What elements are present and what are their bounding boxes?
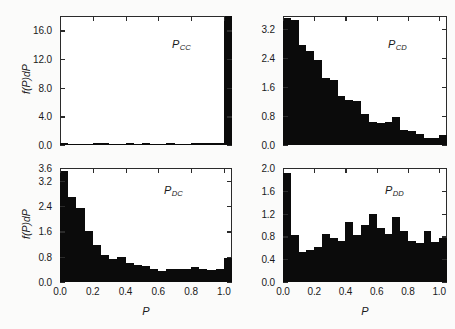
y-axis-tick: [283, 87, 288, 88]
panel-cd-label-main: P: [388, 38, 395, 50]
panel-dd-bars: [283, 168, 447, 282]
y-axis-tick-label: 0.4: [0, 254, 275, 265]
y-axis-tick-mirror: [227, 181, 232, 182]
x-axis-tick: [439, 168, 440, 173]
histogram-bar: [416, 134, 424, 145]
histogram-bar: [408, 131, 416, 145]
y-axis-tick-mirror: [442, 116, 447, 117]
histogram-bar: [439, 135, 447, 145]
x-axis-title-left: P: [142, 305, 149, 317]
x-axis-tick-label: 0.2: [307, 286, 321, 297]
histogram-bar: [338, 96, 346, 145]
y-axis-tick: [283, 58, 288, 59]
figure-histogram-grid: PCC 0.04.08.012.016.0 PCD 0.00.81.62.43.…: [0, 0, 455, 329]
histogram-bar: [283, 18, 291, 145]
y-axis-tick-label: 1.6: [0, 185, 275, 196]
x-axis-tick: [314, 168, 315, 173]
x-axis-tick-label: 0.6: [370, 286, 384, 297]
histogram-bar: [322, 234, 330, 282]
x-axis-tick: [439, 16, 440, 21]
x-axis-tick-label: 1.0: [432, 286, 446, 297]
panel-cc-label-main: P: [172, 38, 179, 50]
y-axis-tick-mirror: [442, 145, 447, 146]
histogram-bar: [369, 214, 377, 282]
panel-cd-bars: [283, 16, 447, 145]
panel-p-cd: PCD: [283, 16, 447, 145]
y-axis-tick-label: 3.2: [0, 23, 275, 34]
y-axis-tick: [60, 181, 65, 182]
x-axis-tick: [314, 16, 315, 21]
histogram-bar: [431, 242, 439, 282]
y-axis-tick-mirror: [442, 29, 447, 30]
histogram-bar: [338, 241, 346, 282]
histogram-bar: [322, 78, 330, 145]
x-axis-tick: [345, 168, 346, 173]
histogram-bar: [353, 235, 361, 282]
histogram-bar: [283, 173, 291, 282]
y-axis-tick-label: 2.0: [0, 163, 275, 174]
y-axis-tick-mirror: [442, 214, 447, 215]
panel-cd-label: PCD: [388, 38, 407, 50]
panel-cd-label-sub: CD: [396, 43, 407, 52]
panel-cc-label-sub: CC: [180, 43, 191, 52]
y-axis-tick: [60, 206, 65, 207]
y-axis-title-top: f(P)dP: [20, 49, 32, 109]
histogram-bar: [306, 51, 314, 145]
x-axis-tick-label: 0.6: [151, 286, 165, 297]
y-axis-tick-label: 0.0: [0, 140, 275, 151]
histogram-bar: [392, 217, 400, 282]
histogram-bar: [385, 122, 393, 145]
y-axis-tick-mirror: [442, 259, 447, 260]
histogram-bar: [299, 45, 307, 145]
x-axis-tick-label: 1.0: [217, 286, 231, 297]
y-axis-tick: [283, 214, 288, 215]
histogram-bar: [345, 100, 353, 145]
histogram-bar: [377, 228, 385, 282]
histogram-bar: [299, 252, 307, 282]
y-axis-tick: [283, 145, 288, 146]
panel-cc-label: PCC: [172, 38, 191, 50]
y-axis-tick: [283, 236, 288, 237]
y-axis-tick-mirror: [227, 206, 232, 207]
x-axis-tick: [158, 16, 159, 21]
histogram-bar: [377, 123, 385, 145]
y-axis-tick: [283, 116, 288, 117]
y-axis-tick-label: 2.4: [0, 52, 275, 63]
y-axis-tick: [283, 29, 288, 30]
x-axis-tick: [283, 168, 284, 173]
panel-dd-label-main: P: [385, 184, 392, 196]
y-axis-tick-label: 0.8: [0, 231, 275, 242]
y-axis-tick-label: 1.6: [0, 81, 275, 92]
histogram-bar: [361, 225, 369, 282]
y-axis-tick-mirror: [442, 282, 447, 283]
histogram-bar: [353, 101, 361, 145]
histogram-bar: [408, 241, 416, 282]
x-axis-tick: [283, 16, 284, 21]
y-axis-title-bottom: f(P)dP: [20, 194, 32, 254]
y-axis-tick-mirror: [442, 236, 447, 237]
histogram-bar: [306, 250, 314, 282]
histogram-bar: [400, 231, 408, 282]
histogram-bar: [314, 247, 322, 282]
x-axis-tick: [408, 168, 409, 173]
x-axis-tick: [224, 16, 225, 21]
y-axis-tick: [283, 259, 288, 260]
y-axis-tick-mirror: [442, 87, 447, 88]
x-axis-tick-label: 0.0: [53, 286, 67, 297]
panel-dd-label: PDD: [385, 184, 404, 196]
x-axis-tick: [60, 16, 61, 21]
histogram-bar: [361, 114, 369, 145]
x-axis-tick-label: 0.2: [86, 286, 100, 297]
x-axis-tick-label: 0.0: [276, 286, 290, 297]
histogram-bar: [424, 138, 432, 145]
y-axis-tick-mirror: [442, 168, 447, 169]
histogram-bar: [431, 138, 439, 145]
y-axis-tick-label: 1.2: [0, 208, 275, 219]
histogram-bar: [424, 231, 432, 282]
x-axis-tick-label: 0.4: [339, 286, 353, 297]
x-axis-tick: [126, 16, 127, 21]
histogram-bar: [392, 117, 400, 145]
x-axis-tick-label: 0.8: [401, 286, 415, 297]
panel-dd-label-sub: DD: [393, 189, 404, 198]
x-axis-tick: [191, 16, 192, 21]
